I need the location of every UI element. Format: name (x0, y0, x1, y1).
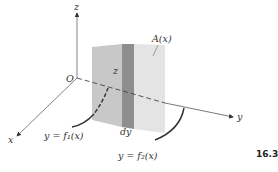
x-axis (17, 78, 77, 136)
x-axis-label: x (8, 134, 14, 145)
origin-label: O (66, 73, 74, 84)
y-axis (165, 103, 233, 117)
slab-right-face (134, 44, 165, 133)
curve-f2-label: y = f₂(x) (117, 150, 158, 161)
curve-f1 (72, 114, 94, 127)
curve-f1-label: y = f₁(x) (43, 130, 84, 141)
height-label: z (112, 65, 119, 76)
dy-strip (122, 44, 134, 129)
z-axis-label: z (73, 1, 80, 12)
thickness-label: dy (120, 126, 132, 137)
y-axis-label: y (236, 111, 243, 122)
volume-diagram: z x O y z A(x) y = f₁(x) y = f₂(x) dy 16… (0, 0, 278, 172)
slab-left-face (92, 44, 122, 127)
figure-number: 16.3 (256, 149, 278, 159)
area-label: A(x) (151, 33, 172, 44)
